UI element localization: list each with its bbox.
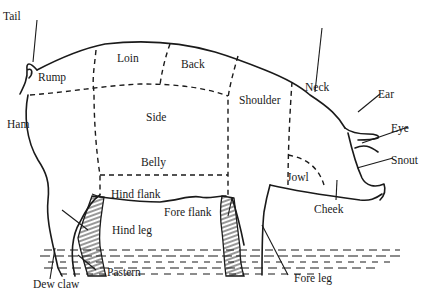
label-cheek: Cheek — [314, 203, 344, 215]
pig-body-outline — [20, 42, 385, 276]
label-loin: Loin — [117, 52, 139, 64]
label-fore-flank: Fore flank — [164, 206, 212, 218]
label-side: Side — [146, 111, 166, 123]
pig-anatomy-diagram: Tail Rump Loin Back Neck Ear Eye Snout H… — [0, 0, 440, 304]
label-jowl: Jowl — [287, 171, 309, 183]
label-dew-claw: Dew claw — [33, 278, 80, 290]
label-snout: Snout — [391, 154, 419, 166]
label-rump: Rump — [38, 71, 66, 84]
fore-leg-shading — [221, 196, 245, 276]
label-ear: Ear — [378, 88, 394, 100]
label-ham: Ham — [7, 118, 29, 130]
hind-leg-shading — [78, 196, 106, 276]
label-eye: Eye — [391, 122, 409, 135]
label-tail: Tail — [3, 10, 21, 22]
label-hind-leg: Hind leg — [112, 224, 152, 237]
label-shoulder: Shoulder — [239, 94, 281, 106]
cut-lines — [30, 44, 324, 198]
label-neck: Neck — [305, 81, 330, 93]
label-pastern: Pastern — [107, 266, 141, 278]
label-hind-flank: Hind flank — [111, 188, 161, 200]
label-belly: Belly — [141, 156, 166, 169]
label-back: Back — [181, 58, 205, 70]
label-fore-leg: Fore leg — [294, 272, 332, 285]
